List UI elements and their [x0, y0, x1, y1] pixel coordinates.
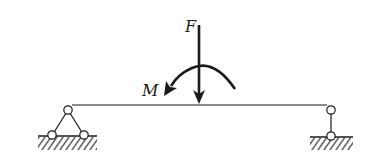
- left-pin-support: [38, 106, 97, 150]
- left-top-hinge: [64, 106, 72, 114]
- moment-label: M: [141, 81, 159, 100]
- left-base-hinge-1: [48, 131, 56, 139]
- right-base-hinge: [327, 132, 335, 140]
- beam-diagram: F M: [0, 0, 375, 164]
- right-top-hinge: [327, 106, 335, 114]
- left-base-hinge-2: [80, 131, 88, 139]
- right-roller-support: [310, 106, 353, 150]
- moment-arrowhead-icon: [164, 81, 177, 96]
- force-label: F: [184, 17, 197, 36]
